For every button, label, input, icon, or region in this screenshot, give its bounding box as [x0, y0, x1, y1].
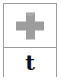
cross-vertical-bar — [26, 12, 35, 39]
character-glyph: t — [25, 52, 35, 73]
icon-cell[interactable] — [4, 4, 56, 48]
character-cell[interactable]: t — [4, 48, 56, 77]
plus-cross-icon — [16, 12, 44, 39]
icon-character-card: t — [0, 0, 61, 81]
cross-highlight — [27, 13, 34, 15]
card-frame: t — [3, 3, 57, 77]
